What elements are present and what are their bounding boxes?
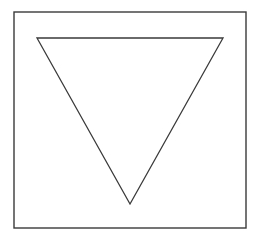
- diagram-canvas: [0, 0, 261, 234]
- frame-rectangle: [14, 12, 246, 228]
- diagram-svg: [0, 0, 261, 234]
- inverted-triangle: [37, 38, 223, 204]
